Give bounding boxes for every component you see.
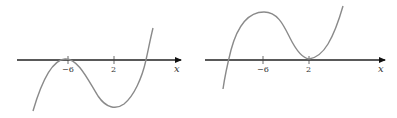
left-tick-label-2: 2 xyxy=(111,65,116,74)
right-tick-label-neg6: −6 xyxy=(257,65,269,74)
right-tick-label-2: 2 xyxy=(306,65,311,74)
right-cubic-curve xyxy=(223,6,343,89)
left-cubic-curve xyxy=(33,28,153,111)
left-axis-label: x xyxy=(174,63,180,74)
left-graph: −6 2 x xyxy=(17,28,181,111)
right-graph: −6 2 x xyxy=(205,6,385,89)
left-tick-label-neg6: −6 xyxy=(62,65,74,74)
right-axis-label: x xyxy=(378,63,384,74)
graphs-canvas: −6 2 x −6 2 x xyxy=(0,0,397,118)
